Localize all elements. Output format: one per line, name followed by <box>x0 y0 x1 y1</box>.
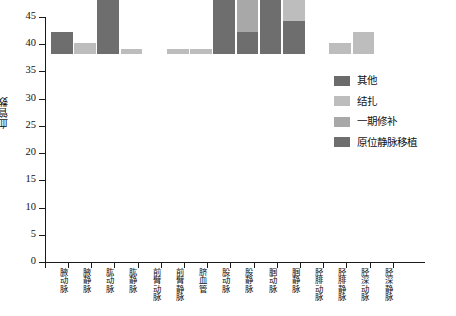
y-axis-tick-label: 45 <box>10 11 36 22</box>
legend-item: 结扎 <box>334 93 417 110</box>
bar-segment <box>213 0 235 54</box>
y-axis-tick <box>39 71 45 72</box>
x-axis-label: 肱动脉 <box>104 268 113 293</box>
y-axis-tick-label: 40 <box>10 38 36 49</box>
legend-item: 其他 <box>334 72 417 89</box>
x-axis-label: 前臂动脉 <box>150 268 159 301</box>
bar-stack <box>51 32 73 54</box>
x-axis-label: 腘静脉 <box>289 268 298 293</box>
bar-stack <box>190 49 212 54</box>
bar-segment <box>329 43 351 54</box>
y-axis-tick <box>39 44 45 45</box>
y-axis-tick <box>39 180 45 181</box>
x-axis-tick <box>254 263 255 268</box>
x-axis-tick <box>114 263 115 268</box>
bar-segment <box>353 32 375 54</box>
x-axis-label: 胫腓静脉 <box>336 268 345 301</box>
x-axis-label: 股静脉 <box>243 268 252 293</box>
x-axis-tick <box>230 263 231 268</box>
bar-segment <box>260 0 282 54</box>
x-axis-tick <box>68 263 69 268</box>
bar-segment <box>237 0 259 32</box>
legend-swatch <box>334 96 350 106</box>
bar-stack <box>353 32 375 54</box>
y-axis-tick <box>39 153 45 154</box>
bar-segment <box>283 0 305 21</box>
x-axis-label: 腋静脉 <box>80 268 89 293</box>
y-axis-tick-label: 15 <box>10 174 36 185</box>
x-axis-label: 腘动脉 <box>266 268 275 293</box>
x-axis-label: 前臂静脉 <box>173 268 182 301</box>
bar-stack <box>74 43 96 54</box>
y-axis-tick <box>39 126 45 127</box>
x-axis-tick <box>346 263 347 268</box>
x-axis-tick <box>45 263 46 268</box>
bar-stack <box>237 0 259 54</box>
x-axis-tick <box>161 263 162 268</box>
bar-stack <box>260 0 282 54</box>
x-axis-label: 脐血管 <box>196 268 205 293</box>
bar-segment <box>283 21 305 54</box>
legend-label: 原位静脉移植 <box>357 137 417 148</box>
legend-swatch <box>334 76 350 86</box>
bar-segment <box>97 0 119 54</box>
y-axis-tick <box>39 99 45 100</box>
y-axis-tick-label: 25 <box>10 120 36 131</box>
x-axis-tick <box>184 263 185 268</box>
legend-label: 一期修补 <box>357 116 397 127</box>
y-axis-line <box>45 17 46 263</box>
y-axis-tick <box>39 208 45 209</box>
bar-segment <box>51 32 73 54</box>
y-axis-tick-label: 35 <box>10 65 36 76</box>
bar-stack <box>121 49 143 54</box>
y-axis-tick-label: 10 <box>10 202 36 213</box>
x-axis-tick <box>91 263 92 268</box>
y-axis-tick <box>39 235 45 236</box>
x-axis-label: 胫深动脉 <box>359 268 368 301</box>
x-axis-tick <box>138 263 139 268</box>
bar-stack <box>213 0 235 54</box>
bar-segment <box>237 32 259 54</box>
legend-swatch <box>334 117 350 127</box>
x-axis-tick <box>277 263 278 268</box>
x-axis-line <box>45 262 425 263</box>
x-axis-label: 肱静脉 <box>127 268 136 293</box>
y-axis-tick <box>39 17 45 18</box>
x-axis-tick <box>393 263 394 268</box>
bar-segment <box>190 49 212 54</box>
bar-stack <box>329 43 351 54</box>
stacked-bar-chart: 血管数 051015202530354045 腋动脉腋静脉肱动脉肱静脉前臂动脉前… <box>0 0 456 316</box>
bar-segment <box>121 49 143 54</box>
y-axis-tick-label: 0 <box>10 256 36 267</box>
legend-label: 结扎 <box>357 96 377 107</box>
bar-stack <box>283 0 305 54</box>
x-axis-tick <box>323 263 324 268</box>
legend-item: 原位静脉移植 <box>334 134 417 151</box>
x-axis-label: 腋动脉 <box>57 268 66 293</box>
bar-segment <box>74 43 96 54</box>
y-axis-tick-label: 30 <box>10 93 36 104</box>
legend-label: 其他 <box>357 75 377 86</box>
y-axis-tick-label: 20 <box>10 147 36 158</box>
bar-stack <box>167 49 189 54</box>
bar-segment <box>167 49 189 54</box>
x-axis-tick <box>370 263 371 268</box>
legend-swatch <box>334 137 350 147</box>
chart-legend: 其他结扎一期修补原位静脉移植 <box>334 72 417 154</box>
x-axis-tick <box>300 263 301 268</box>
legend-item: 一期修补 <box>334 113 417 130</box>
x-axis-tick <box>207 263 208 268</box>
y-axis-tick-label: 5 <box>10 229 36 240</box>
bar-stack <box>97 0 119 54</box>
x-axis-label: 股动脉 <box>220 268 229 293</box>
x-axis-label: 胫腓动脉 <box>312 268 321 301</box>
x-axis-label: 胫深静脉 <box>382 268 391 301</box>
